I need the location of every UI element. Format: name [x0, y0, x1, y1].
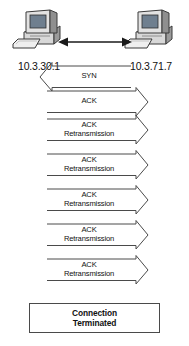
host-link-arrow: [58, 34, 132, 46]
message-band-1: [47, 88, 148, 117]
double-headed-arrow-icon: [58, 36, 132, 48]
desktop-computer-icon: [10, 6, 68, 58]
connection-terminated-line1: Connection: [72, 308, 117, 318]
message-arrow-band-group: [0, 62, 189, 294]
message-band-5: [47, 221, 148, 250]
message-sequence: SYN ACK ACK Retransmission ACK Retransmi…: [0, 62, 189, 294]
desktop-computer-icon: [122, 6, 180, 58]
message-band-6: [47, 256, 148, 285]
connection-terminated-line2: Terminated: [73, 318, 117, 328]
message-band-0: [40, 63, 131, 92]
host-left-computer: [10, 6, 68, 58]
host-right-computer: [122, 6, 180, 58]
message-band-2: [47, 116, 148, 145]
message-band-3: [47, 151, 148, 180]
message-band-4: [47, 186, 148, 215]
connection-terminated-box: Connection Terminated: [29, 303, 160, 333]
network-sequence-diagram: 10.3.30.1 10.3.71.7: [0, 0, 189, 346]
